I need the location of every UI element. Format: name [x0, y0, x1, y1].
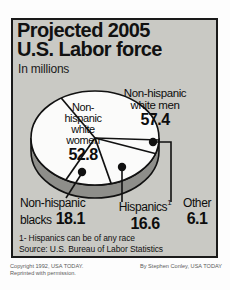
page-title-line2: U.S. Labor force — [17, 40, 215, 59]
pie-chart: Non-hispanic white men 57.4 Non- hispani… — [29, 80, 205, 202]
legend-value-blacks: 18.1 — [56, 210, 85, 227]
copyright-line2: Reprinted with permission. — [10, 270, 110, 277]
notes-block: 1- Hispanics can be of any race Source: … — [19, 233, 213, 254]
footnote-text: 1- Hispanics can be of any race — [19, 233, 213, 244]
pie-chart-svg — [29, 80, 205, 202]
legend-item-blacks: Non-hispanic blacks 18.1 — [20, 197, 118, 228]
leader-dot-other — [149, 138, 157, 146]
legend-label-other: Other — [176, 197, 218, 210]
legend-label-blacks-line2: blacks — [20, 213, 52, 227]
source-text: Source: U.S. Bureau of Labor Statistics — [19, 244, 213, 255]
legend: Non-hispanic blacks 18.1 Hispanics1 16.6… — [18, 196, 214, 230]
legend-label-hispanics: Hispanics — [119, 200, 167, 214]
legend-footnote-marker-hispanics: 1 — [167, 198, 171, 207]
chart-panel: Projected 2005 U.S. Labor force In milli… — [11, 18, 218, 258]
chart-subtitle: In millions — [18, 62, 69, 76]
leader-dot-blacks — [78, 168, 86, 176]
legend-value-other: 6.1 — [176, 210, 218, 228]
legend-value-hispanics: 16.6 — [114, 215, 176, 233]
title-block: Projected 2005 U.S. Labor force — [17, 21, 215, 59]
leader-dot-hispanics — [118, 163, 126, 171]
infographic-root: Projected 2005 U.S. Labor force In milli… — [0, 0, 230, 290]
legend-item-other: Other 6.1 — [176, 197, 218, 228]
copyright-line1: Copyright 1992, USA TODAY. — [10, 263, 110, 270]
legend-label-blacks-line1: Non-hispanic — [20, 197, 118, 210]
byline: By Stephen Conley, USA TODAY — [118, 263, 222, 270]
legend-item-hispanics: Hispanics1 16.6 — [114, 197, 176, 233]
copyright-block: Copyright 1992, USA TODAY. Reprinted wit… — [10, 263, 110, 276]
